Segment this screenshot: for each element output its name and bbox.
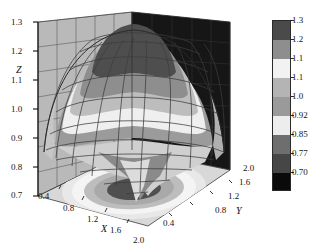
plot-3d-svg bbox=[0, 0, 268, 250]
colorbar-band bbox=[273, 135, 290, 154]
z-tick-1: 1.2 bbox=[11, 47, 22, 56]
x-tick-1: 0.8 bbox=[63, 204, 74, 213]
y-tick-3: 1.6 bbox=[239, 178, 250, 187]
colorbar-label-6: 0.85 bbox=[292, 130, 308, 139]
colorbar-band bbox=[273, 116, 290, 135]
colorbar-band bbox=[273, 154, 290, 173]
z-tick-4: 0.9 bbox=[11, 134, 22, 143]
z-tick-2: 1.1 bbox=[11, 76, 22, 85]
z-tick-6: 0.7 bbox=[11, 191, 22, 200]
x-tick-4: 2.0 bbox=[133, 236, 144, 245]
plot-3d-canvas bbox=[0, 0, 268, 250]
colorbar-label-7: 0.77 bbox=[292, 149, 308, 158]
colorbar-label-1: 1.2 bbox=[292, 35, 303, 44]
colorbar-label-5: 0.92 bbox=[292, 111, 308, 120]
x-tick-2: 1.2 bbox=[87, 215, 98, 224]
colorbar-label-0: 1.3 bbox=[292, 16, 303, 25]
colorbar-label-4: 1.0 bbox=[292, 92, 303, 101]
colorbar-label-3: 1.1 bbox=[292, 73, 303, 82]
y-tick-2: 1.2 bbox=[228, 192, 239, 201]
z-tick-5: 0.8 bbox=[11, 163, 22, 172]
colorbar-band bbox=[273, 97, 290, 116]
surface-plot-figure: Z 1.3 1.2 1.1 1.0 0.9 0.8 0.7 X 0.4 0.8 … bbox=[0, 0, 324, 250]
colorbar-band bbox=[273, 78, 290, 97]
x-tick-3: 1.6 bbox=[110, 226, 121, 235]
colorbar-label-8: 0.70 bbox=[292, 168, 308, 177]
y-axis-title: Y bbox=[236, 206, 242, 216]
colorbar-band bbox=[273, 40, 290, 59]
z-tick-0: 1.3 bbox=[11, 18, 22, 27]
x-axis-title: X bbox=[101, 224, 107, 234]
colorbar-band bbox=[273, 21, 290, 40]
y-tick-1: 0.8 bbox=[215, 206, 226, 215]
colorbar-band bbox=[273, 173, 290, 191]
colorbar-band bbox=[273, 59, 290, 78]
colorbar-label-2: 1.1 bbox=[292, 54, 303, 63]
colorbar bbox=[272, 20, 291, 191]
z-axis-ticks bbox=[33, 22, 38, 196]
x-tick-0: 0.4 bbox=[38, 192, 49, 201]
z-tick-3: 1.0 bbox=[11, 105, 22, 114]
z-axis-title: Z bbox=[16, 65, 22, 75]
y-tick-0: 0.4 bbox=[163, 219, 174, 228]
y-tick-4: 2.0 bbox=[243, 164, 254, 173]
